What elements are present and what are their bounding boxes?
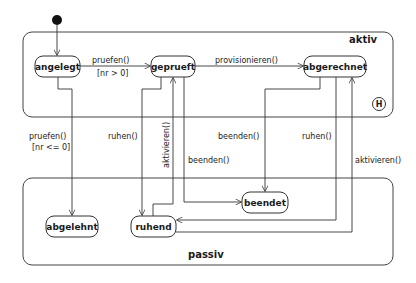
history-icon: H: [376, 100, 383, 109]
edge-label: pruefen(): [92, 56, 129, 65]
edge-label: ruhen(): [108, 132, 138, 141]
edge-guard: [nr > 0]: [97, 69, 128, 78]
edge-label: ruhen(): [302, 132, 332, 141]
state-beendet[interactable]: beendet: [242, 192, 288, 213]
state-label: geprueft: [151, 62, 196, 72]
region-aktiv-label: aktiv: [349, 34, 378, 45]
state-abgelehnt[interactable]: abgelehnt: [46, 216, 98, 237]
edge-label: pruefen(): [29, 132, 66, 141]
state-label: angelegt: [35, 62, 81, 72]
state-label: abgerechnet: [303, 62, 368, 72]
edge-label: beenden(): [188, 156, 229, 165]
edge-label: provisionieren(): [215, 56, 278, 65]
state-angelegt[interactable]: angelegt: [35, 56, 81, 77]
state-label: beendet: [244, 198, 287, 208]
edge-guard: [nr <= 0]: [32, 143, 70, 152]
initial-state-icon: [52, 15, 62, 25]
state-abgerechnet[interactable]: abgerechnet: [303, 56, 368, 77]
state-label: abgelehnt: [46, 222, 98, 232]
edge-label: beenden(): [218, 132, 259, 141]
transition-geprueft-ruhend: [142, 77, 161, 215]
region-passiv-label: passiv: [188, 249, 224, 260]
history-marker: H: [373, 98, 386, 111]
state-diagram: aktiv H passiv pruefen() [nr > 0] provis…: [0, 0, 416, 283]
state-ruhend[interactable]: ruhend: [131, 216, 176, 237]
state-geprueft[interactable]: geprueft: [151, 56, 196, 77]
state-label: ruhend: [135, 222, 171, 232]
edge-label: aktivieren(): [162, 122, 171, 168]
edge-label: aktivieren(): [355, 156, 401, 165]
